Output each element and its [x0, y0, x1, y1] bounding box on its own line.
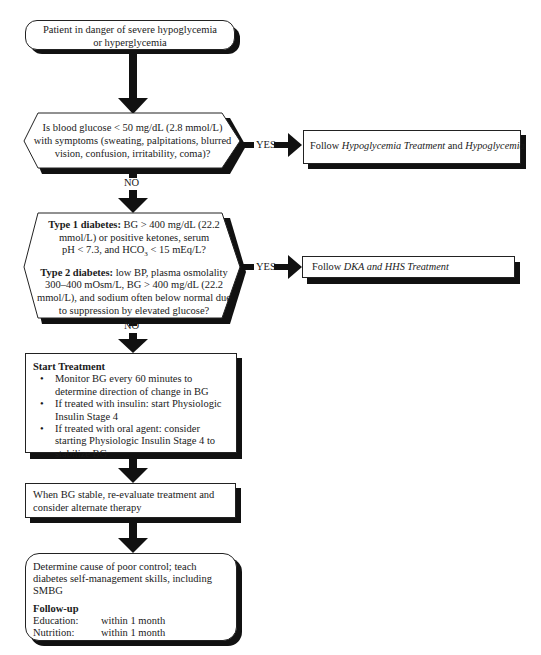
decision2-no-label: NO — [124, 320, 139, 331]
type1-line2: mmol/L) or positive ketones, serum — [28, 232, 240, 245]
decision1-line3: vision, confusion, irritability, coma)? — [30, 147, 235, 160]
treatment-bullet: Monitor BG every 60 minutes to determine… — [55, 373, 230, 398]
reevaluate-node: When BG stable, re-evaluate treatment an… — [25, 483, 236, 518]
arrow-down-icon — [118, 333, 148, 353]
treatment-node: Start Treatment Monitor BG every 60 minu… — [25, 353, 237, 453]
decision2-node: Type 1 diabetes: BG > 400 mg/dL (22.2 mm… — [28, 219, 240, 317]
decision1-no-label: NO — [124, 177, 139, 188]
type2-heading: Type 2 diabetes: — [40, 267, 113, 278]
treatment-title: Start Treatment — [33, 361, 105, 372]
type2-line1: low BP, plasma osmolality — [113, 267, 228, 278]
decision1-line1: Is blood glucose < 50 mg/dL (2.8 mmol/L) — [30, 121, 235, 134]
arrow-down-icon — [118, 52, 148, 114]
action1-node: Follow Hypoglycemia Treatment and Hypogl… — [303, 130, 521, 164]
treatment-bullet: If treated with insulin: start Physiolog… — [55, 398, 230, 423]
treatment-bullet: If treated with oral agent: consider sta… — [55, 423, 230, 460]
action1-prefix: Follow — [310, 140, 342, 151]
followup-label: Education: — [33, 615, 101, 627]
arrow-down-icon — [118, 190, 148, 213]
action1-middle: and — [445, 140, 465, 151]
decision2-yes-label: YES — [256, 261, 276, 272]
type2-line2: 300–400 mOsm/L, BG > 400 mg/dL (22.2 — [28, 279, 240, 292]
followup-label: Nutrition: — [33, 627, 101, 639]
followup-row-education: Education: within 1 month — [33, 615, 230, 627]
followup-value: within 1 month — [101, 627, 165, 639]
type2-line4: to suppression by elevated glucose? — [28, 305, 240, 318]
decision1-node: Is blood glucose < 50 mg/dL (2.8 mmol/L)… — [30, 121, 235, 160]
start-text-line2: or hyperglycemia — [26, 37, 234, 50]
start-text-line1: Patient in danger of severe hypoglycemia — [26, 24, 234, 37]
type2-line3: mmol/L), and sodium often below normal d… — [28, 292, 240, 305]
arrow-right-icon — [274, 255, 302, 279]
final-text: Determine cause of poor control; teach d… — [33, 561, 230, 597]
decision1-yes-label: YES — [256, 139, 276, 150]
action2-link-dka-hhs-treatment: DKA and HHS Treatment — [344, 261, 449, 272]
arrow-right-icon — [274, 133, 302, 157]
action1-link-hypoglycemia-treatment: Hypoglycemia Treatment — [342, 140, 445, 151]
type1-heading: Type 1 diabetes: — [48, 219, 121, 230]
followup-title: Follow-up — [33, 603, 79, 614]
decision1-line2: with symptoms (sweating, palpitations, b… — [30, 134, 235, 147]
reevaluate-text: When BG stable, re-evaluate treatment an… — [33, 489, 227, 514]
start-node: Patient in danger of severe hypoglycemia… — [25, 20, 235, 50]
action1-link-hypoglycemia: Hypoglycemia — [465, 140, 524, 151]
arrow-down-icon — [118, 522, 148, 553]
followup-value: within 1 month — [101, 615, 165, 627]
type1-line3a: pH < 7.3, and HCO — [62, 244, 144, 255]
action2-node: Follow DKA and HHS Treatment — [302, 256, 515, 278]
action2-prefix: Follow — [312, 261, 344, 272]
arrow-down-icon — [118, 458, 148, 483]
followup-row-nutrition: Nutrition: within 1 month — [33, 627, 230, 639]
final-node: Determine cause of poor control; teach d… — [25, 553, 237, 641]
treatment-list: Monitor BG every 60 minutes to determine… — [33, 373, 230, 460]
type1-line1: BG > 400 mg/dL (22.2 — [121, 219, 220, 230]
type1-line3b: < 15 mEq/L? — [148, 244, 206, 255]
